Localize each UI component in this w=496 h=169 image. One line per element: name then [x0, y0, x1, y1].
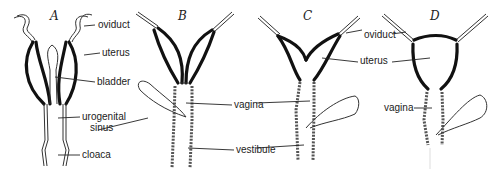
- uterus-right-wall: [441, 44, 457, 89]
- vagina-wall-left: [424, 92, 428, 145]
- vagina-wall-right: [190, 86, 192, 168]
- uterus-left-horn: [154, 30, 178, 83]
- panel-c: C: [256, 9, 362, 160]
- uterus-left-wall: [413, 44, 428, 89]
- uterus-left: [26, 42, 44, 104]
- panel-b: B vagina vestibule: [98, 9, 276, 168]
- vagina-wall-right: [442, 92, 443, 145]
- bladder: [138, 81, 186, 117]
- label-uterus: uterus: [360, 55, 388, 66]
- label-uterus: uterus: [102, 47, 130, 58]
- vagina-wall-left: [172, 86, 175, 168]
- urogenital-sinus-left: [42, 104, 45, 166]
- label-vestibule: vestibule: [236, 144, 276, 155]
- label-vagina: vagina: [384, 102, 414, 113]
- panel-a: A oviduct uterus bladder urogenital sinu…: [14, 9, 131, 166]
- vagina-wall-left: [296, 82, 300, 160]
- label-urogenital: urogenital: [82, 111, 126, 122]
- uterus-right: [66, 42, 76, 104]
- diagram-canvas: A oviduct uterus bladder urogenital sinu…: [0, 0, 496, 169]
- label-vagina: vagina: [234, 99, 264, 110]
- label-cloaca: cloaca: [82, 149, 111, 160]
- panel-c-label: C: [303, 9, 312, 23]
- label-bladder: bladder: [97, 76, 131, 87]
- uterus-fundus: [414, 36, 456, 41]
- panel-b-label: B: [177, 9, 187, 23]
- panel-d: D oviduct uterus vagina: [360, 9, 488, 169]
- uterus-right-wall: [314, 36, 340, 80]
- urogenital-sinus-right: [66, 104, 69, 166]
- label-oviduct: oviduct: [98, 19, 130, 30]
- label-oviduct: oviduct: [364, 29, 396, 40]
- panel-d-label: D: [429, 9, 440, 23]
- panel-a-label: A: [49, 9, 59, 23]
- uterus-types-diagram: A oviduct uterus bladder urogenital sinu…: [0, 0, 496, 169]
- oviduct-right: [69, 16, 88, 42]
